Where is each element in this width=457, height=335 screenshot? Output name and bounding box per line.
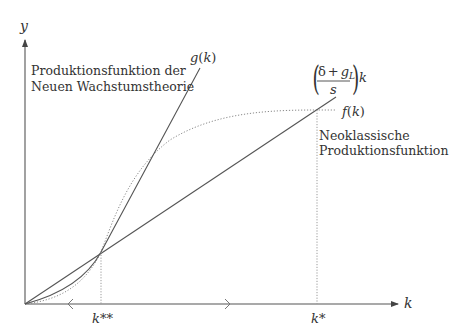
investment-line (25, 97, 336, 304)
growth-theory-diagram: y k g(k) f(k) ( δ+gL s ) k Produktionsfu… (0, 0, 457, 335)
svg-text:s: s (330, 82, 337, 97)
neoclassical-annotation-line2: Produktionsfunktion (319, 143, 448, 158)
f-curve (25, 110, 336, 304)
svg-text:k: k (359, 70, 367, 85)
new-growth-annotation-line1: Produktionsfunktion der (31, 63, 186, 78)
investment-line-label: ( δ+gL s ) k (312, 59, 367, 97)
svg-text:δ+gL: δ+gL (318, 64, 355, 81)
f-curve-label: f(k) (341, 104, 365, 119)
y-axis-label: y (19, 18, 29, 34)
new-growth-annotation-line2: Neuen Wachstumstheorie (31, 79, 194, 94)
k-double-star-label: k** (92, 311, 113, 326)
k-star-label: k* (311, 311, 326, 326)
g-curve (25, 68, 200, 304)
g-curve-label: g(k) (190, 50, 216, 65)
neoclassical-annotation-line1: Neoklassische (319, 128, 410, 143)
x-axis-label: k (404, 295, 412, 311)
